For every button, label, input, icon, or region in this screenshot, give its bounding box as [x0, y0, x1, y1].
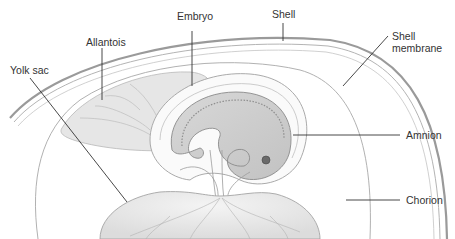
label-shell-membrane: Shell membrane [392, 30, 442, 54]
embryo-eye [262, 156, 270, 164]
yolk-sac-shape [100, 192, 320, 239]
label-allantois: Allantois [86, 36, 126, 48]
label-shell-membrane-line2: membrane [392, 42, 442, 54]
label-yolk-sac: Yolk sac [10, 64, 49, 76]
label-chorion: Chorion [406, 194, 443, 206]
egg-illustration [0, 0, 455, 239]
label-shell: Shell [272, 8, 295, 20]
label-amnion: Amnion [406, 129, 442, 141]
label-shell-membrane-line1: Shell [392, 30, 442, 42]
label-embryo: Embryo [177, 10, 213, 22]
egg-diagram: Embryo Shell Allantois Yolk sac Shell me… [0, 0, 455, 239]
